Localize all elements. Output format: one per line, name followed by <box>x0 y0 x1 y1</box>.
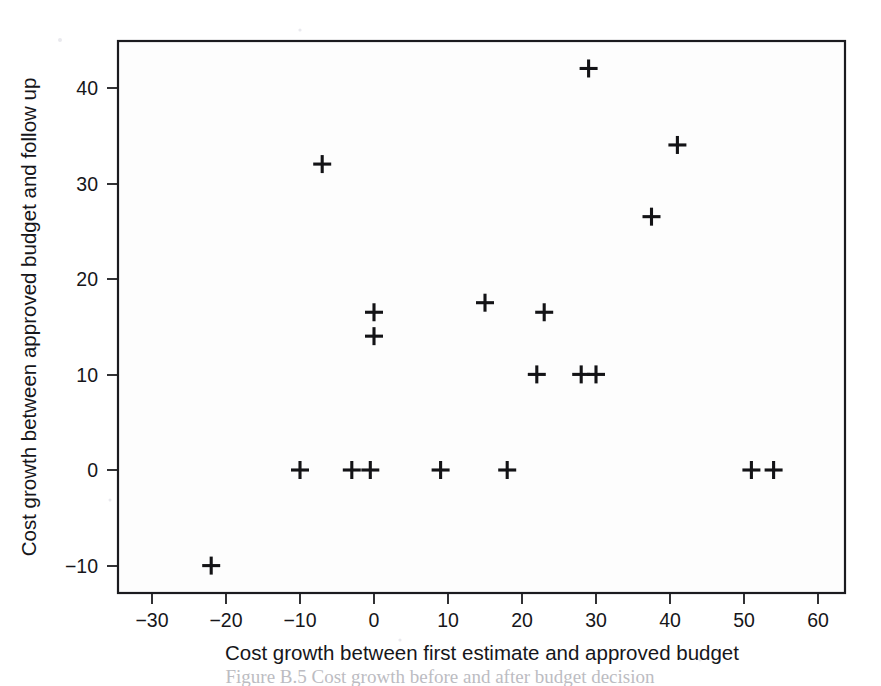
x-tick-label: 10 <box>437 609 459 631</box>
x-axis-tick-labels: −30 −20 −10 0 10 20 30 40 50 60 <box>135 609 829 631</box>
x-tick-label: 40 <box>659 609 681 631</box>
y-tick-label: −10 <box>65 555 98 577</box>
figure-container: −30 −20 −10 0 10 20 30 40 50 60 −10 0 10… <box>0 0 881 686</box>
y-axis-tick-labels: −10 0 10 20 30 40 <box>65 77 98 577</box>
plot-frame <box>118 41 845 593</box>
scatter-chart: −30 −20 −10 0 10 20 30 40 50 60 −10 0 10… <box>0 0 881 686</box>
y-tick-label: 0 <box>87 459 98 481</box>
x-tick-label: −20 <box>209 609 242 631</box>
x-axis-ticks <box>152 593 818 604</box>
y-tick-label: 40 <box>76 77 98 99</box>
figure-caption: Figure B.5 Cost growth before and after … <box>226 666 655 686</box>
x-tick-label: 30 <box>585 609 607 631</box>
y-tick-label: 10 <box>76 364 98 386</box>
x-tick-label: 60 <box>807 609 829 631</box>
y-tick-label: 30 <box>76 173 98 195</box>
y-tick-label: 20 <box>76 268 98 290</box>
x-tick-label: 0 <box>369 609 380 631</box>
y-axis-title: Cost growth between approved budget and … <box>17 78 40 557</box>
x-tick-label: 20 <box>511 609 533 631</box>
x-tick-label: −30 <box>135 609 168 631</box>
y-axis-ticks <box>107 88 118 566</box>
x-axis-title: Cost growth between first estimate and a… <box>225 641 739 664</box>
x-tick-label: 50 <box>733 609 755 631</box>
x-tick-label: −10 <box>283 609 316 631</box>
